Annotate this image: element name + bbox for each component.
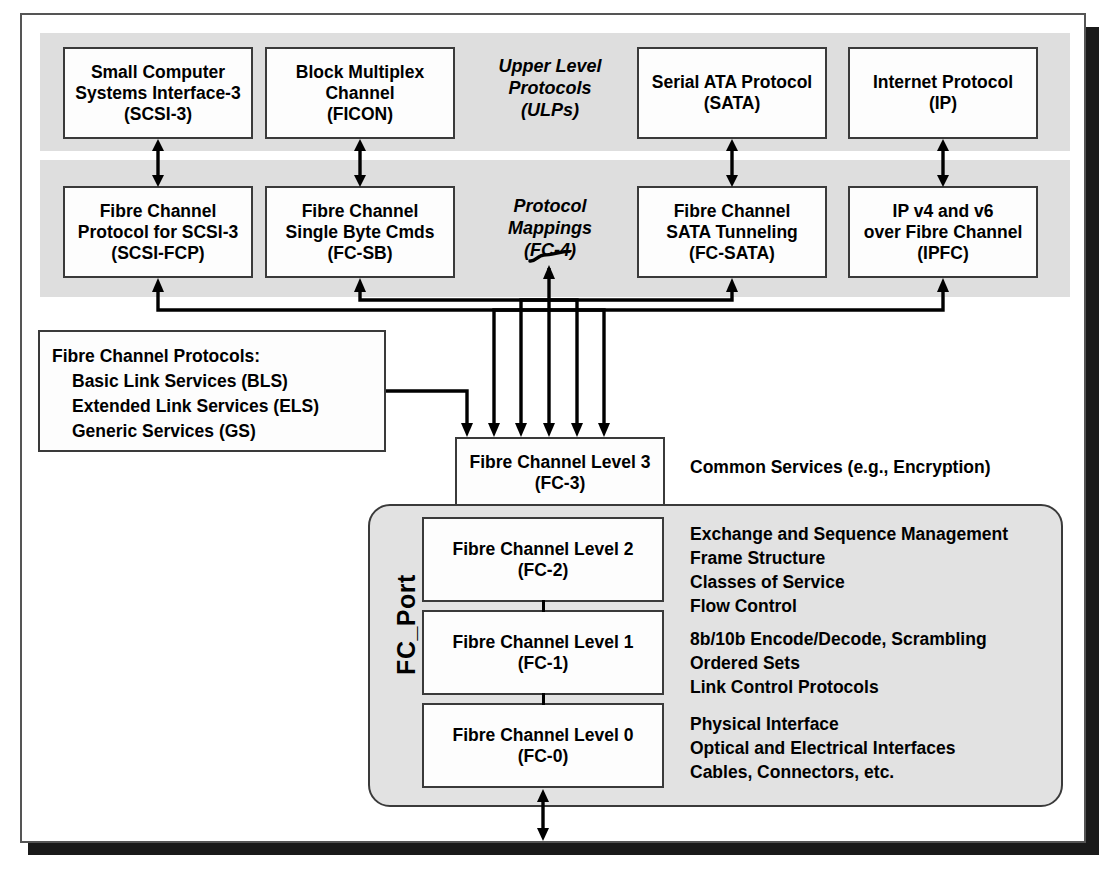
box-line: (FC-2) [518, 560, 569, 581]
arrowhead-up-fc4-center [543, 265, 555, 279]
feature-line: Frame Structure [690, 546, 1008, 570]
arrowhead-down-fc3-5 [571, 423, 583, 437]
diagram-canvas: Small Computer Systems Interface-3 (SCSI… [0, 0, 1107, 869]
fc2-features: Exchange and Sequence Management Frame S… [690, 522, 1008, 618]
protocols-item: Generic Services (GS) [52, 419, 384, 444]
arrowhead-up-scsi-fcp [152, 278, 164, 292]
arrowhead-down-fc3-4 [543, 423, 555, 437]
box-fc-2[interactable]: Fibre Channel Level 2 (FC-2) [422, 517, 664, 602]
box-fc-3[interactable]: Fibre Channel Level 3 (FC-3) [455, 437, 665, 509]
protocols-item: Extended Link Services (ELS) [52, 394, 384, 419]
feature-line: 8b/10b Encode/Decode, Scrambling [690, 627, 987, 651]
box-line: Fibre Channel Level 2 [453, 539, 634, 560]
box-line: (FC-3) [535, 473, 586, 494]
fc0-features: Physical Interface Optical and Electrica… [690, 712, 956, 784]
feature-line: Physical Interface [690, 712, 956, 736]
feature-line: Optical and Electrical Interfaces [690, 736, 956, 760]
feature-line: Flow Control [690, 594, 1008, 618]
feature-line: Link Control Protocols [690, 675, 987, 699]
feature-line: Classes of Service [690, 570, 1008, 594]
fc3-description: Common Services (e.g., Encryption) [690, 455, 990, 479]
feature-line: Common Services (e.g., Encryption) [690, 455, 990, 479]
fc1-features: 8b/10b Encode/Decode, Scrambling Ordered… [690, 627, 987, 699]
arrowhead-down-fc3-3 [515, 423, 527, 437]
arrowhead-up-fc-sb [354, 278, 366, 292]
arrowhead-down-fc3-1 [461, 423, 473, 437]
feature-line: Ordered Sets [690, 651, 987, 675]
arrow-fc0-to-medium [535, 789, 551, 841]
box-fc-1[interactable]: Fibre Channel Level 1 (FC-1) [422, 610, 664, 695]
box-fibre-channel-protocols[interactable]: Fibre Channel Protocols: Basic Link Serv… [38, 330, 386, 452]
protocols-item: Basic Link Services (BLS) [52, 369, 384, 394]
arrowhead-down-fc3-6 [598, 423, 610, 437]
arrowhead-up-fc-sata [726, 278, 738, 292]
feature-line: Exchange and Sequence Management [690, 522, 1008, 546]
feature-line: Cables, Connectors, etc. [690, 760, 956, 784]
protocols-heading: Fibre Channel Protocols: [52, 344, 384, 369]
box-line: Fibre Channel Level 1 [453, 632, 634, 653]
box-line: (FC-1) [518, 653, 569, 674]
connector-fc2-fc1 [542, 600, 545, 612]
arrowhead-down-fc3-2 [488, 423, 500, 437]
box-line: Fibre Channel Level 3 [470, 452, 651, 473]
fc-port-label: FC_Port [392, 545, 421, 705]
box-line: Fibre Channel Level 0 [453, 725, 634, 746]
box-line: (FC-0) [518, 746, 569, 767]
box-fc-0[interactable]: Fibre Channel Level 0 (FC-0) [422, 703, 664, 788]
arrowhead-up-ipfc [937, 278, 949, 292]
connector-fc1-fc0 [542, 693, 545, 705]
